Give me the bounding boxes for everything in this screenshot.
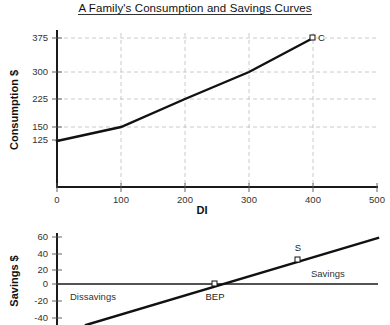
savings-ytick-0: 0 — [43, 278, 48, 289]
consumption-xtick-100: 100 — [113, 194, 129, 205]
savings-bep-label: BEP — [205, 291, 224, 302]
consumption-ytick-125: 125 — [32, 134, 48, 145]
consumption-xtick-400: 400 — [305, 194, 321, 205]
consumption-axes — [56, 30, 378, 187]
consumption-gridlines-horizontal — [57, 38, 378, 127]
consumption-x-axis-title: DI — [197, 204, 208, 215]
consumption-ytick-375: 375 — [32, 32, 48, 43]
savings-axes — [57, 233, 378, 325]
savings-chart: 60 40 20 0 -20 -40 Savings $ BEP S Dissa… — [0, 215, 390, 325]
savings-curve — [86, 238, 378, 325]
dissavings-region-label: Dissavings — [70, 291, 116, 302]
savings-ytick-neg40: -40 — [34, 312, 48, 323]
consumption-xtick-300: 300 — [241, 194, 257, 205]
consumption-ytick-300: 300 — [32, 66, 48, 77]
savings-ytick-neg20: -20 — [34, 295, 48, 306]
savings-ytick-20: 20 — [37, 264, 48, 275]
consumption-chart: 375 300 225 150 125 0 100 200 300 400 50… — [0, 0, 390, 215]
savings-point-s-marker — [295, 257, 300, 262]
savings-point-s-label: S — [295, 242, 301, 253]
consumption-ytick-150: 150 — [32, 121, 48, 132]
savings-bep-marker — [212, 281, 217, 286]
savings-ytick-60: 60 — [37, 231, 48, 242]
consumption-gridlines-vertical — [121, 33, 313, 186]
consumption-point-c-marker — [310, 35, 315, 40]
savings-region-label: Savings — [311, 268, 345, 279]
consumption-xtick-500: 500 — [369, 194, 385, 205]
consumption-y-axis-title: Consumption $ — [8, 70, 20, 150]
consumption-point-c-label: C — [318, 32, 325, 43]
savings-y-axis-title: Savings $ — [8, 255, 20, 306]
consumption-xtick-200: 200 — [177, 194, 193, 205]
consumption-ytick-225: 225 — [32, 93, 48, 104]
consumption-xtick-0: 0 — [54, 194, 59, 205]
savings-ytick-40: 40 — [37, 248, 48, 259]
